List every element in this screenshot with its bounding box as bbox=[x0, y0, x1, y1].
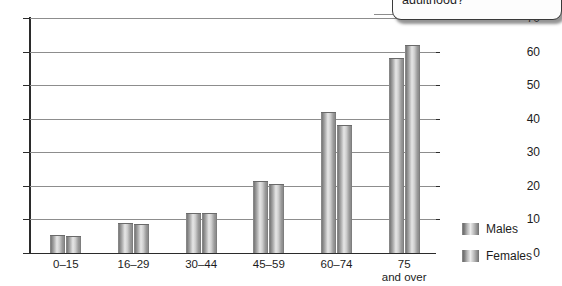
y-tick-mark bbox=[23, 119, 29, 120]
bar-group bbox=[50, 18, 81, 253]
x-axis-tick-label: 75and over bbox=[364, 258, 444, 284]
gridline bbox=[30, 85, 436, 86]
y-axis-tick-label: 10 bbox=[520, 213, 540, 225]
bar-males bbox=[253, 181, 268, 253]
legend-swatch-icon bbox=[462, 223, 479, 235]
bar-females bbox=[337, 125, 352, 253]
gridline bbox=[30, 186, 436, 187]
callout-text: adulthood? bbox=[402, 0, 464, 8]
y-tick-mark bbox=[23, 253, 29, 254]
x-axis-label-sub: and over bbox=[364, 271, 444, 284]
axis-baseline bbox=[30, 253, 436, 254]
gridline bbox=[30, 152, 436, 153]
bar-group bbox=[118, 18, 149, 253]
bar-males bbox=[389, 58, 404, 253]
y-tick-mark bbox=[23, 18, 29, 19]
bar-females bbox=[66, 236, 81, 253]
bar-females bbox=[202, 213, 217, 253]
bar-males bbox=[321, 112, 336, 253]
y-tick-mark bbox=[23, 85, 29, 86]
callout-bubble: adulthood? bbox=[392, 0, 562, 20]
x-axis-label-main: 16–29 bbox=[118, 258, 150, 270]
bar-males bbox=[50, 235, 65, 253]
gridline bbox=[30, 219, 436, 220]
bar-group bbox=[186, 18, 217, 253]
bar-females bbox=[405, 45, 420, 253]
y-tick-mark bbox=[23, 152, 29, 153]
x-axis-label-main: 30–44 bbox=[185, 258, 217, 270]
x-axis-label-main: 60–74 bbox=[321, 258, 353, 270]
bar-males bbox=[186, 213, 201, 253]
y-tick-mark bbox=[23, 52, 29, 53]
bar-females bbox=[269, 184, 284, 253]
bar-females bbox=[134, 224, 149, 253]
bar-group bbox=[389, 18, 420, 253]
bar-group bbox=[253, 18, 284, 253]
y-tick-mark bbox=[23, 219, 29, 220]
legend-label-females: Females bbox=[486, 249, 532, 263]
bar-males bbox=[118, 223, 133, 253]
x-axis-label-main: 0–15 bbox=[53, 258, 79, 270]
legend-swatch-icon bbox=[462, 250, 479, 262]
y-axis-tick-label: 30 bbox=[520, 146, 540, 158]
gridline bbox=[30, 18, 436, 19]
y-axis-tick-label: 20 bbox=[520, 180, 540, 192]
x-axis-label-main: 45–59 bbox=[253, 258, 285, 270]
x-axis-label-main: 75 bbox=[398, 258, 411, 270]
callout-connector-line bbox=[374, 14, 394, 15]
bar-group bbox=[321, 18, 352, 253]
y-tick-mark bbox=[23, 186, 29, 187]
y-axis-tick-label: 60 bbox=[520, 46, 540, 58]
legend-label-males: Males bbox=[486, 222, 518, 236]
y-axis-tick-label: 50 bbox=[520, 79, 540, 91]
gridline bbox=[30, 52, 436, 53]
gridline bbox=[30, 119, 436, 120]
plot-area bbox=[30, 18, 436, 253]
y-axis-tick-label: 40 bbox=[520, 113, 540, 125]
